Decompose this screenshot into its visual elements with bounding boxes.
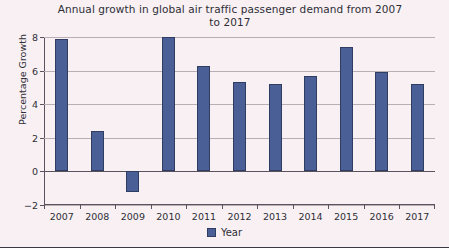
y-tick-label: −2 <box>24 200 38 211</box>
chart-legend: Year <box>0 227 449 238</box>
bar <box>411 84 424 171</box>
y-tick-label: 2 <box>32 132 38 143</box>
y-axis-title: Percentage Growth <box>17 10 28 150</box>
x-tick-label: 2009 <box>121 211 145 222</box>
chart-title: Annual growth in global air traffic pass… <box>30 3 430 29</box>
y-tick-mark <box>40 104 44 105</box>
x-tick-mark <box>151 205 152 209</box>
y-tick-label: 0 <box>32 166 38 177</box>
x-tick-mark <box>293 205 294 209</box>
x-tick-mark <box>257 205 258 209</box>
y-tick-mark <box>40 71 44 72</box>
x-tick-mark <box>186 205 187 209</box>
bar-chart: Annual growth in global air traffic pass… <box>0 0 449 248</box>
y-tick-mark <box>40 37 44 38</box>
bar <box>126 171 139 191</box>
legend-swatch-icon <box>207 228 216 237</box>
y-tick-label: 4 <box>32 99 38 110</box>
x-tick-mark <box>434 205 435 209</box>
y-tick-mark <box>40 171 44 172</box>
bar <box>162 37 175 171</box>
x-tick-mark <box>222 205 223 209</box>
chart-title-line-1: Annual growth in global air traffic pass… <box>58 3 402 15</box>
x-tick-mark <box>399 205 400 209</box>
x-tick-label: 2013 <box>263 211 287 222</box>
y-tick-label: 6 <box>32 65 38 76</box>
bar <box>197 66 210 172</box>
x-tick-label: 2014 <box>298 211 322 222</box>
legend-label: Year <box>221 227 242 238</box>
bar <box>233 82 246 171</box>
gridline <box>44 37 435 38</box>
x-tick-label: 2010 <box>156 211 180 222</box>
gridline <box>44 171 435 172</box>
x-tick-label: 2012 <box>227 211 251 222</box>
x-tick-label: 2017 <box>405 211 429 222</box>
x-tick-mark <box>364 205 365 209</box>
chart-title-line-2: to 2017 <box>30 16 430 29</box>
bar <box>304 76 317 172</box>
x-tick-label: 2011 <box>192 211 216 222</box>
y-tick-mark <box>40 138 44 139</box>
x-tick-mark <box>115 205 116 209</box>
bar <box>340 47 353 171</box>
x-tick-label: 2008 <box>85 211 109 222</box>
x-tick-mark <box>44 205 45 209</box>
x-tick-label: 2007 <box>50 211 74 222</box>
bar <box>375 72 388 171</box>
y-tick-label: 8 <box>32 32 38 43</box>
plot-area: −202468 20072008200920102011201220132014… <box>44 37 435 205</box>
bar <box>55 39 68 172</box>
x-tick-label: 2015 <box>334 211 358 222</box>
bar <box>91 131 104 171</box>
bar <box>269 84 282 171</box>
x-tick-mark <box>328 205 329 209</box>
x-tick-mark <box>80 205 81 209</box>
x-tick-label: 2016 <box>370 211 394 222</box>
gridline <box>44 205 435 206</box>
